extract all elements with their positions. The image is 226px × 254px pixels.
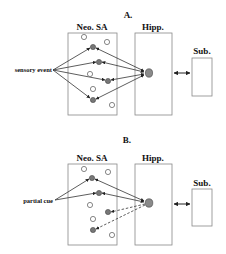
sub-box	[192, 58, 212, 96]
memory-diagram: A. Neo. SA Hipp. Sub. sensory event	[0, 0, 226, 254]
panel-b: B. Neo. SA Hipp. Sub. partial cue	[23, 135, 212, 245]
neo-hipp-links	[95, 179, 144, 202]
neo-sa-label: Neo. SA	[77, 22, 108, 32]
hipp-box	[135, 33, 172, 115]
retrieval-dashed-arrows	[96, 204, 145, 229]
sub-label: Sub.	[193, 46, 210, 56]
sub-label: Sub.	[193, 178, 210, 188]
inactive-nodes	[81, 34, 114, 107]
hipp-node	[145, 199, 153, 207]
sensory-event-label: sensory event	[15, 66, 53, 73]
input-arrows	[53, 48, 105, 98]
panel-b-title: B.	[123, 135, 131, 145]
input-arrows	[55, 179, 96, 200]
sub-box	[192, 189, 212, 226]
partial-cue-label: partial cue	[23, 197, 53, 204]
hipp-node	[145, 69, 152, 77]
inactive-nodes	[81, 166, 114, 237]
hipp-label: Hipp.	[142, 153, 164, 163]
hipp-label: Hipp.	[142, 22, 164, 32]
neo-hipp-links	[96, 48, 144, 99]
panel-a-title: A.	[124, 10, 133, 20]
panel-a: A. Neo. SA Hipp. Sub. sensory event	[15, 10, 212, 115]
hipp-box	[135, 164, 172, 245]
neo-sa-label: Neo. SA	[77, 153, 108, 163]
